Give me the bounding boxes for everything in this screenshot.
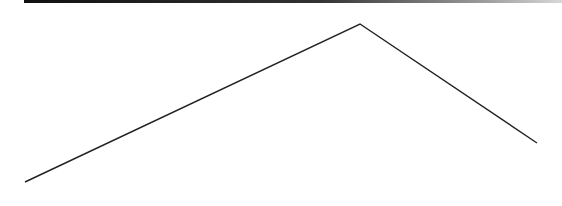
- peak-line-shape: [0, 0, 562, 206]
- peak-polyline: [25, 24, 537, 182]
